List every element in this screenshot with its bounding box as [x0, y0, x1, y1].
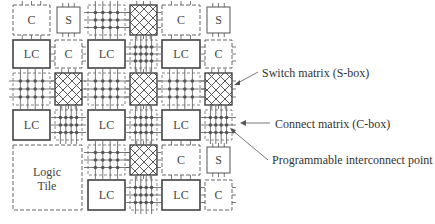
connect-matrix-grid	[126, 106, 161, 144]
interconnect-point	[150, 201, 154, 205]
connect-matrix-grid	[9, 69, 54, 109]
interconnect-point	[214, 116, 218, 120]
interconnect-point	[19, 95, 23, 99]
interconnect-point	[59, 116, 63, 120]
interconnect-point	[134, 193, 138, 197]
interconnect-point	[144, 193, 148, 197]
switch-matrix-xbox	[205, 73, 232, 105]
interconnect-point	[168, 87, 172, 91]
interconnect-point	[191, 95, 195, 99]
logic-tile-label: Tile	[38, 179, 57, 193]
interconnect-point	[116, 11, 120, 15]
fpga-fabric-diagram: CSCSLCCLCLCCLCLCLCCSLCLCCLogicTile	[0, 0, 435, 224]
logic-cell-label: LC	[173, 47, 188, 61]
interconnect-point	[168, 79, 172, 83]
interconnect-point	[108, 79, 112, 83]
interconnect-point	[134, 201, 138, 205]
connect-matrix-grid	[158, 69, 204, 109]
interconnect-point	[116, 151, 120, 155]
connect-matrix-grid	[126, 36, 161, 72]
interconnect-point	[94, 158, 98, 162]
interconnect-point	[101, 158, 105, 162]
interconnect-point	[225, 131, 229, 135]
interconnect-point	[94, 95, 98, 99]
interconnect-point	[134, 186, 138, 190]
logic-cell-label: LC	[99, 47, 114, 61]
interconnect-point	[139, 123, 143, 127]
interconnect-point	[75, 123, 79, 127]
interconnect-point	[116, 26, 120, 30]
interconnect-point	[139, 52, 143, 56]
interconnect-point	[139, 45, 143, 49]
switch-box-label: S	[215, 13, 222, 27]
connect-matrix-grid	[84, 69, 129, 109]
interconnect-point	[144, 59, 148, 63]
interconnect-point	[94, 79, 98, 83]
interconnect-point	[175, 79, 179, 83]
interconnect-point	[150, 45, 154, 49]
interconnect-point	[116, 18, 120, 22]
interconnect-point	[41, 87, 45, 91]
interconnect-point	[144, 52, 148, 56]
interconnect-point	[19, 79, 23, 83]
interconnect-point	[108, 26, 112, 30]
interconnect-point	[94, 166, 98, 170]
interconnect-point	[108, 158, 112, 162]
connect-box-label: C	[214, 188, 222, 202]
connect-matrix-grid	[84, 1, 129, 39]
interconnect-point	[101, 18, 105, 22]
interconnect-point	[150, 123, 154, 127]
interconnect-point	[75, 131, 79, 135]
interconnect-point	[26, 79, 30, 83]
interconnect-point	[41, 95, 45, 99]
interconnect-point	[144, 123, 148, 127]
interconnect-point	[33, 79, 37, 83]
interconnect-point	[94, 151, 98, 155]
interconnect-point	[101, 151, 105, 155]
interconnect-point	[139, 201, 143, 205]
interconnect-point	[33, 87, 37, 91]
interconnect-point	[168, 95, 172, 99]
connect-box-label: C	[64, 47, 72, 61]
logic-cell-label: LC	[99, 118, 114, 132]
interconnect-point	[139, 131, 143, 135]
interconnect-point	[139, 116, 143, 120]
interconnect-point	[175, 87, 179, 91]
interconnect-point	[214, 131, 218, 135]
interconnect-point	[108, 151, 112, 155]
interconnect-point	[64, 116, 68, 120]
interconnect-point	[101, 166, 105, 170]
interconnect-point	[33, 95, 37, 99]
interconnect-point	[69, 123, 73, 127]
interconnect-point	[108, 87, 112, 91]
switch-matrix-xbox	[130, 73, 157, 105]
interconnect-point	[175, 95, 179, 99]
switch-box-label: S	[65, 13, 72, 27]
interconnect-point	[69, 116, 73, 120]
interconnect-point	[41, 79, 45, 83]
interconnect-point	[108, 18, 112, 22]
interconnect-point	[101, 11, 105, 15]
arrowhead-icon	[240, 120, 246, 126]
interconnect-point	[139, 193, 143, 197]
interconnect-point	[209, 123, 213, 127]
logic-cell-label: LC	[24, 47, 39, 61]
logic-cell-label: LC	[173, 118, 188, 132]
interconnect-point	[26, 95, 30, 99]
interconnect-point	[59, 131, 63, 135]
interconnect-point	[191, 87, 195, 91]
interconnect-point	[139, 186, 143, 190]
logic-cell-label: LC	[24, 118, 39, 132]
logic-cell-label: LC	[99, 188, 114, 202]
connect-box-label: C	[214, 47, 222, 61]
interconnect-point	[69, 131, 73, 135]
interconnect-point	[64, 123, 68, 127]
interconnect-point	[139, 59, 143, 63]
switch-matrix-xbox	[55, 73, 82, 105]
connect-matrix-grid	[201, 106, 236, 144]
interconnect-point	[134, 131, 138, 135]
interconnect-point	[183, 95, 187, 99]
connect-box-label: C	[177, 13, 185, 27]
interconnect-point	[94, 87, 98, 91]
interconnect-point	[219, 116, 223, 120]
